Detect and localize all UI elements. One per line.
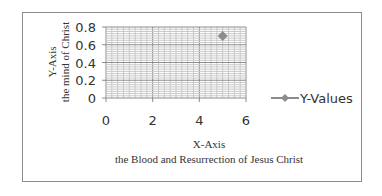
x-axis-title-line2: the Blood and Resurrection of Jesus Chri… bbox=[115, 153, 303, 165]
legend-diamond-icon bbox=[281, 94, 289, 102]
y-axis-title-line2: the mind of Christ bbox=[59, 22, 71, 102]
y-axis-title-line1: Y-Axis bbox=[46, 46, 58, 77]
x-axis-title-line1: X-Axis bbox=[193, 138, 225, 150]
y-axis-title: Y-Axis the mind of Christ bbox=[46, 22, 71, 102]
y-tick-label: 0 bbox=[88, 91, 96, 106]
y-tick-label: 0.6 bbox=[75, 38, 96, 53]
y-tick-label: 0.4 bbox=[75, 56, 96, 71]
x-axis-ticks: 0246 bbox=[102, 113, 250, 128]
legend: Y-Values bbox=[271, 91, 353, 106]
x-tick-label: 4 bbox=[195, 113, 203, 128]
legend-label: Y-Values bbox=[299, 91, 353, 106]
y-tick-label: 0.2 bbox=[75, 73, 96, 88]
data-series bbox=[218, 31, 228, 41]
y-axis-ticks: 00.20.40.60.8 bbox=[75, 20, 96, 106]
chart-svg: 00.20.40.60.8 0246 Y-Axis the mind of Ch… bbox=[0, 0, 382, 196]
x-tick-label: 6 bbox=[242, 113, 250, 128]
x-tick-label: 2 bbox=[149, 113, 157, 128]
y-tick-label: 0.8 bbox=[75, 20, 96, 35]
data-point-diamond-icon bbox=[218, 31, 228, 41]
x-tick-label: 0 bbox=[102, 113, 110, 128]
